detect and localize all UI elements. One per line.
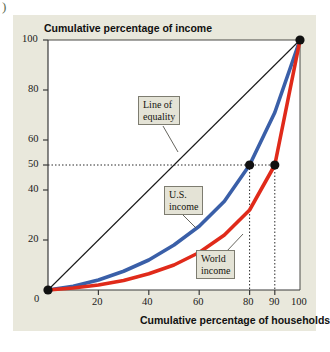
callout-us-income: U.S. income <box>164 186 203 215</box>
callout-world-line1: World <box>201 253 230 265</box>
x-tick-label-80: 80 <box>243 296 254 307</box>
callout-world-line2: income <box>201 265 230 277</box>
callout-us-line1: U.S. <box>169 189 198 201</box>
callout-world-income: World income <box>196 250 235 279</box>
marker-world-90-50 <box>270 160 279 169</box>
x-tick-label-100: 100 <box>291 296 307 307</box>
y-tick-label-40: 40 <box>28 183 39 194</box>
callout-line-of-equality: Line of equality <box>138 96 180 125</box>
marker-us-80-50 <box>245 160 254 169</box>
callout-us-line2: income <box>169 201 198 213</box>
x-axis-title: Cumulative percentage of households <box>140 314 330 326</box>
y-axis-title: Cumulative percentage of income <box>44 22 212 34</box>
y-axis-ticks <box>43 40 48 240</box>
marker-total-100-100 <box>295 35 304 44</box>
y-tick-label-60: 60 <box>28 133 39 144</box>
callout-equality-line1: Line of <box>143 99 175 111</box>
x-tick-label-60: 60 <box>193 296 204 307</box>
x-axis-ticks <box>98 290 274 295</box>
x-tick-label-40: 40 <box>142 296 153 307</box>
x-tick-label-90: 90 <box>269 296 280 307</box>
callout-equality-line2: equality <box>143 111 175 123</box>
y-tick-label-100: 100 <box>22 33 38 44</box>
y-tick-label-0: 0 <box>34 293 39 304</box>
marker-origin <box>43 285 52 294</box>
x-tick-label-20: 20 <box>92 296 103 307</box>
y-tick-label-20: 20 <box>28 233 39 244</box>
y-tick-label-50: 50 <box>28 158 39 169</box>
y-tick-label-80: 80 <box>28 83 39 94</box>
